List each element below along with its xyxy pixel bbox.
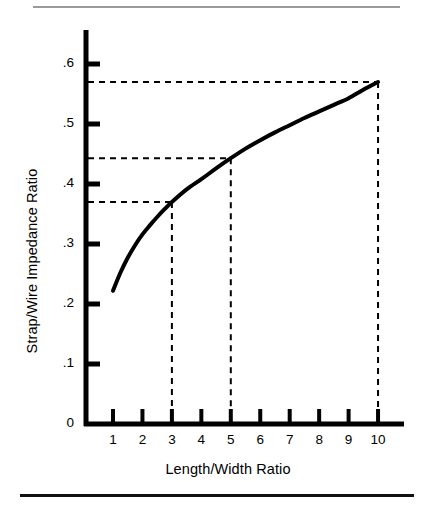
x-tick-label: 2 bbox=[129, 432, 155, 447]
x-tick-label: 7 bbox=[277, 432, 303, 447]
x-axis-title: Length/Width Ratio bbox=[133, 461, 323, 477]
y-tick-label: .2 bbox=[46, 295, 74, 310]
y-tick-label: .6 bbox=[46, 55, 74, 70]
x-tick-label: 4 bbox=[188, 432, 214, 447]
x-tick-label: 8 bbox=[306, 432, 332, 447]
x-tick-label: 6 bbox=[247, 432, 273, 447]
data-curve bbox=[113, 82, 378, 291]
figure-container: 0.1.2.3.4.5.6 12345678910 Strap/Wire Imp… bbox=[0, 0, 433, 509]
x-tick-label: 10 bbox=[365, 432, 391, 447]
y-tick-label: .4 bbox=[46, 175, 74, 190]
y-tick-label: .3 bbox=[46, 235, 74, 250]
y-tick-label: .1 bbox=[46, 355, 74, 370]
y-axis-title: Strap/Wire Impedance Ratio bbox=[24, 156, 40, 366]
x-tick-label: 5 bbox=[218, 432, 244, 447]
x-tick-label: 1 bbox=[100, 432, 126, 447]
x-tick-label: 3 bbox=[159, 432, 185, 447]
bottom-divider-rule bbox=[20, 494, 414, 497]
y-tick-label: 0 bbox=[46, 415, 74, 430]
y-tick-label: .5 bbox=[46, 115, 74, 130]
x-tick-label: 9 bbox=[336, 432, 362, 447]
